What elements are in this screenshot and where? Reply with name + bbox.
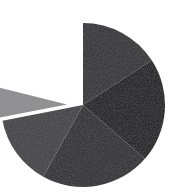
- pie-chart-figure: [0, 0, 183, 192]
- pie-chart-canvas: [0, 0, 183, 192]
